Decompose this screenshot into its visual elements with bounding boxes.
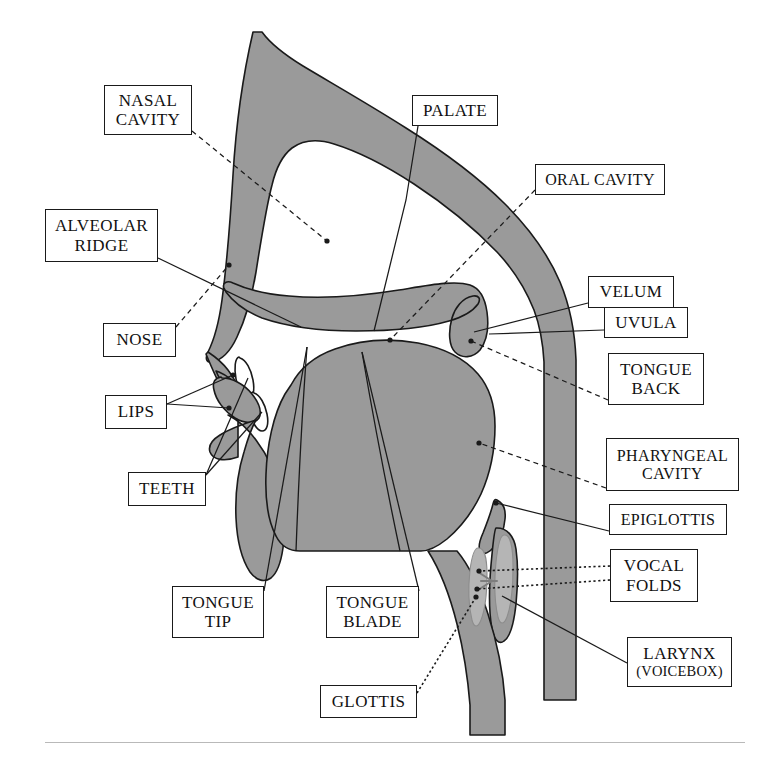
leader-dot-glottis	[473, 594, 478, 599]
label-alveolar-ridge[interactable]: ALVEOLAR RIDGE	[45, 209, 158, 262]
label-alveolar-ridge-line-1: RIDGE	[75, 236, 129, 255]
label-vocal-folds-line-1: FOLDS	[626, 576, 682, 595]
label-nasal-cavity[interactable]: NASAL CAVITY	[104, 85, 192, 135]
leader-tongue-back	[471, 341, 608, 400]
leader-dot-epiglottis	[493, 500, 498, 505]
label-larynx-line-1: (VOICEBOX)	[636, 663, 723, 679]
label-pharyngeal-cavity[interactable]: PHARYNGEAL CAVITY	[606, 438, 739, 491]
leader-dot-pharyngeal-cavity	[476, 440, 481, 445]
footer-divider	[45, 742, 745, 743]
leader-dot-nasal-cavity	[324, 238, 329, 243]
label-nose[interactable]: NOSE	[103, 323, 176, 357]
label-tongue-back-line-0: TONGUE	[620, 360, 692, 379]
label-oral-cavity[interactable]: ORAL CAVITY	[535, 164, 665, 195]
label-nasal-cavity-line-1: CAVITY	[116, 110, 180, 129]
diagram-page: .tissue { fill: #9a9a9a; stroke: #1a1a1a…	[0, 0, 770, 782]
leader-dot-tongue-back	[468, 338, 473, 343]
label-tongue-back-line-1: BACK	[632, 379, 681, 398]
label-nasal-cavity-line-0: NASAL	[119, 91, 178, 110]
label-tongue-tip-line-1: TIP	[205, 612, 232, 631]
label-epiglottis-line-0: EPIGLOTTIS	[621, 511, 716, 529]
leader-dot-lips-upper	[230, 372, 235, 377]
label-uvula[interactable]: UVULA	[604, 307, 688, 338]
label-larynx[interactable]: LARYNX (VOICEBOX)	[627, 637, 732, 687]
label-glottis[interactable]: GLOTTIS	[320, 685, 417, 718]
tongue-group	[266, 340, 495, 551]
label-tongue-tip-line-0: TONGUE	[182, 593, 254, 612]
label-tongue-blade[interactable]: TONGUE BLADE	[326, 586, 419, 638]
label-epiglottis[interactable]: EPIGLOTTIS	[609, 504, 727, 535]
label-pharyngeal-cavity-line-1: CAVITY	[642, 465, 703, 483]
label-vocal-folds[interactable]: VOCAL FOLDS	[610, 549, 698, 602]
label-teeth-line-0: TEETH	[139, 479, 195, 498]
label-oral-cavity-line-0: ORAL CAVITY	[545, 171, 655, 189]
label-velum[interactable]: VELUM	[588, 276, 674, 308]
leader-lips-lower	[167, 404, 229, 408]
label-palate-line-0: PALATE	[423, 101, 487, 120]
label-lips[interactable]: LIPS	[105, 395, 167, 429]
label-lips-line-0: LIPS	[118, 402, 155, 421]
leader-dot-nose	[226, 262, 231, 267]
label-glottis-line-0: GLOTTIS	[332, 692, 406, 711]
label-tongue-blade-line-0: TONGUE	[337, 593, 409, 612]
label-tongue-tip[interactable]: TONGUE TIP	[172, 586, 264, 638]
label-vocal-folds-line-0: VOCAL	[624, 556, 685, 575]
label-uvula-line-0: UVULA	[615, 313, 677, 332]
label-teeth[interactable]: TEETH	[128, 472, 206, 506]
label-larynx-line-0: LARYNX	[643, 644, 715, 663]
leader-dot-oral-cavity	[387, 337, 392, 342]
leader-dot-vocal-folds-a	[476, 568, 481, 573]
leader-dot-vocal-folds-b	[474, 586, 479, 591]
label-nose-line-0: NOSE	[117, 330, 163, 349]
label-palate[interactable]: PALATE	[412, 95, 498, 126]
leader-dot-lips-lower	[226, 405, 231, 410]
label-tongue-blade-line-1: BLADE	[343, 612, 402, 631]
label-alveolar-ridge-line-0: ALVEOLAR	[55, 216, 148, 235]
label-tongue-back[interactable]: TONGUE BACK	[608, 353, 704, 405]
label-velum-line-0: VELUM	[600, 282, 662, 301]
leader-pharyngeal-cavity	[479, 443, 606, 488]
label-pharyngeal-cavity-line-0: PHARYNGEAL	[617, 447, 729, 465]
